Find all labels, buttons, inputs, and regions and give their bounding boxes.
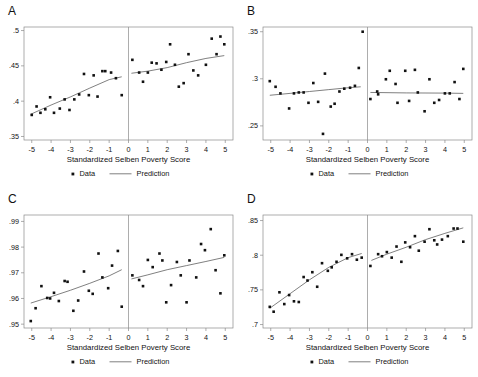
data-point	[433, 102, 436, 105]
data-point	[274, 85, 277, 88]
data-point	[97, 252, 100, 255]
data-point	[458, 98, 461, 101]
data-point	[187, 53, 190, 56]
data-point	[39, 112, 42, 115]
x-tick-label: 3	[185, 145, 189, 154]
data-point	[53, 112, 56, 115]
data-point	[131, 274, 134, 277]
data-point	[436, 243, 439, 246]
data-point	[381, 255, 384, 258]
data-point	[306, 279, 309, 282]
legend-label-prediction: Prediction	[376, 169, 409, 178]
data-point	[111, 264, 114, 267]
data-point	[441, 238, 444, 241]
y-tick-label: .95	[9, 320, 19, 329]
data-point	[390, 256, 393, 259]
x-tick-label: -1	[106, 333, 112, 342]
data-point	[360, 256, 363, 259]
data-point	[327, 270, 330, 273]
data-point	[49, 96, 52, 99]
prediction-line-right	[131, 257, 224, 279]
data-point	[293, 300, 296, 303]
x-tick-label: 4	[204, 145, 208, 154]
data-point	[361, 30, 364, 33]
data-point	[169, 43, 172, 46]
data-point	[438, 99, 441, 102]
x-tick-label: -4	[48, 333, 54, 342]
data-point	[142, 80, 145, 83]
x-tick-label: 3	[185, 333, 189, 342]
legend-label-data: Data	[319, 169, 336, 178]
data-point	[179, 274, 182, 277]
data-point	[335, 260, 338, 263]
x-tick-label: 5	[462, 145, 466, 154]
figure-panel-grid: A .35.4.45.5-5-4-3-2-1012345Standardized…	[0, 0, 478, 377]
x-tick-label: 3	[424, 333, 428, 342]
data-point	[165, 301, 168, 304]
data-point	[456, 227, 459, 230]
data-point	[268, 306, 271, 309]
data-point	[279, 92, 282, 95]
data-point	[462, 68, 465, 71]
data-point	[278, 291, 281, 294]
x-axis-title: Standardized Selben Poverty Score	[306, 155, 430, 164]
x-tick-label: 1	[146, 333, 150, 342]
x-tick-label: -4	[287, 333, 293, 342]
data-point	[63, 280, 66, 283]
data-point	[182, 82, 185, 85]
x-tick-label: 2	[404, 145, 408, 154]
data-point	[447, 235, 450, 238]
data-point	[174, 63, 177, 66]
data-point	[46, 297, 49, 300]
y-tick-label: .98	[9, 243, 19, 252]
prediction-line-right	[371, 228, 463, 261]
data-point	[78, 93, 81, 96]
data-point	[312, 82, 315, 85]
data-point	[117, 250, 120, 253]
data-point	[394, 83, 397, 86]
data-point	[428, 228, 431, 231]
data-point	[356, 258, 359, 261]
x-tick-label: 1	[385, 333, 389, 342]
x-tick-label: -4	[48, 145, 54, 154]
x-tick-label: -3	[67, 145, 73, 154]
data-point	[83, 270, 86, 273]
data-point	[351, 253, 354, 256]
data-point	[160, 68, 163, 71]
x-tick-label: 2	[165, 145, 169, 154]
data-point	[404, 241, 407, 244]
data-point	[44, 108, 47, 111]
data-point	[448, 92, 451, 95]
data-point	[330, 266, 333, 269]
data-point	[428, 78, 431, 81]
data-point	[120, 94, 123, 97]
data-point	[101, 276, 104, 279]
data-point	[92, 74, 95, 77]
x-tick-label: 2	[404, 333, 408, 342]
data-point	[316, 285, 319, 288]
data-point	[388, 69, 391, 72]
data-point	[107, 287, 110, 290]
legend-label-data: Data	[80, 169, 97, 178]
data-point	[101, 70, 104, 73]
prediction-line-left	[31, 270, 122, 303]
data-point	[307, 102, 310, 105]
data-point	[385, 78, 388, 81]
x-axis-title: Standardized Selben Poverty Score	[306, 343, 430, 352]
prediction-line-left	[270, 253, 362, 308]
x-tick-label: -3	[306, 145, 312, 154]
data-point	[354, 85, 357, 88]
data-point	[73, 98, 76, 101]
data-point	[317, 101, 320, 104]
data-point	[215, 53, 218, 56]
data-point	[417, 91, 420, 94]
data-point	[120, 305, 123, 308]
panel-A: A .35.4.45.5-5-4-3-2-1012345Standardized…	[0, 0, 239, 188]
data-point	[298, 301, 301, 304]
y-tick-label: .97	[9, 268, 19, 277]
data-point	[409, 246, 412, 249]
panel-D: D .7.75.8.85-5-4-3-2-1012345Standardized…	[239, 188, 478, 376]
data-point	[377, 253, 380, 256]
x-tick-label: -2	[87, 145, 93, 154]
data-point	[377, 93, 380, 96]
